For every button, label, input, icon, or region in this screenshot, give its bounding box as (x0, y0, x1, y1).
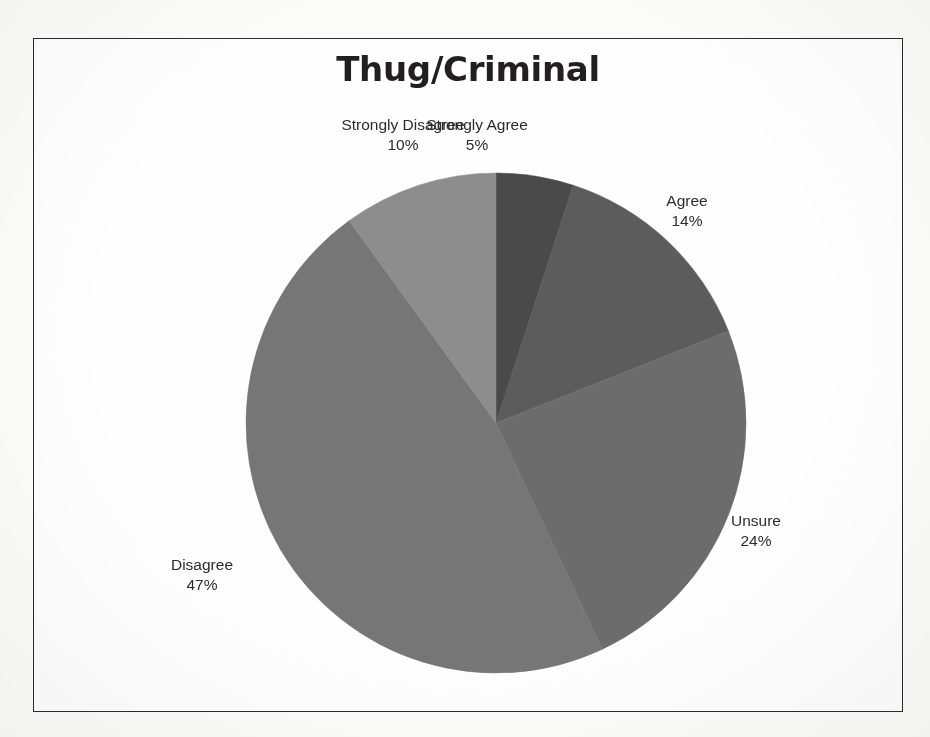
pie-label-disagree-percent: 47% (171, 575, 233, 595)
pie-label-agree-percent: 14% (666, 211, 707, 231)
pie-label-disagree: Disagree 47% (171, 555, 233, 594)
scanned-page: Thug/Criminal Strongly Agree 5% Agree 14… (0, 0, 930, 737)
pie-label-agree-text: Agree (666, 192, 707, 209)
pie-label-agree: Agree 14% (666, 191, 707, 230)
pie-label-disagree-text: Disagree (171, 556, 233, 573)
pie-slice-group (246, 173, 746, 673)
chart-frame: Thug/Criminal Strongly Agree 5% Agree 14… (33, 38, 903, 712)
pie-label-unsure: Unsure 24% (731, 511, 781, 550)
pie-label-unsure-text: Unsure (731, 512, 781, 529)
pie-label-strongly-disagree: Strongly Disagree 10% (341, 115, 464, 154)
pie-label-unsure-percent: 24% (731, 531, 781, 551)
pie-label-strongly-disagree-text: Strongly Disagree (341, 116, 464, 133)
pie-chart: Strongly Agree 5% Agree 14% Unsure 24% D… (34, 39, 904, 713)
pie-label-strongly-disagree-percent: 10% (341, 135, 464, 155)
